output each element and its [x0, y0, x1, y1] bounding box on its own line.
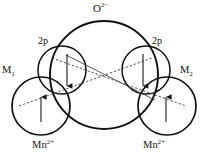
metal-right-label: M2	[180, 65, 193, 76]
cation-right-circle	[138, 77, 196, 135]
cation-left-label: Mn2+	[32, 140, 54, 151]
superexchange-diagram: O2− 2p 2p M1 M2 Mn2+ Mn2+	[0, 0, 204, 158]
oxygen-label: O2−	[93, 3, 109, 14]
coupling-lines	[19, 55, 186, 106]
diagram-canvas	[0, 0, 204, 158]
cation-right-label: Mn2+	[143, 140, 165, 151]
metal-left-label: M1	[2, 65, 15, 76]
orbital-left-label: 2p	[38, 36, 48, 46]
spin-arrows	[41, 54, 166, 122]
orbital-right-label: 2p	[152, 36, 162, 46]
